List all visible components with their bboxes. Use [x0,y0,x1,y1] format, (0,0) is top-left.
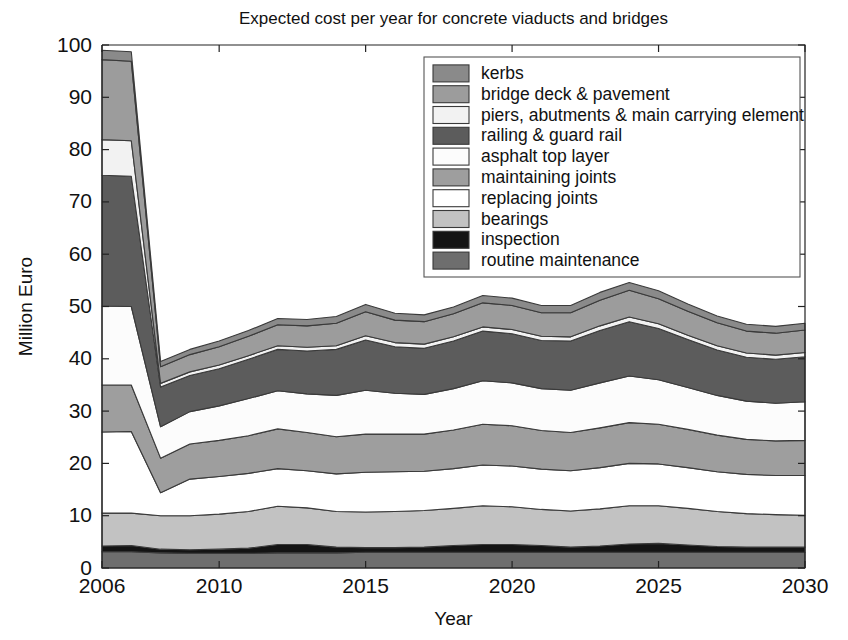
x-tick-label: 2020 [489,574,536,597]
y-tick-label: 50 [69,294,92,317]
legend-label: bearings [481,209,548,229]
legend-label: railing & guard rail [481,125,622,145]
x-tick-label: 2015 [342,574,389,597]
legend-label: kerbs [481,63,524,83]
stacked-area-chart: 0102030405060708090100200620102015202020… [0,0,848,640]
y-tick-label: 60 [69,242,92,265]
y-tick-label: 90 [69,85,92,108]
legend-swatch-bearings [433,211,469,228]
y-tick-label: 10 [69,503,92,526]
legend-label: bridge deck & pavement [481,84,670,104]
legend-label: maintaining joints [481,167,616,187]
y-axis-title: Million Euro [15,257,36,356]
legend-swatch-bridge-deck-pavement [433,86,469,103]
y-tick-label: 40 [69,346,92,369]
y-tick-label: 70 [69,189,92,212]
x-tick-label: 2030 [782,574,829,597]
legend-label: routine maintenance [481,250,640,270]
y-tick-label: 80 [69,137,92,160]
legend-swatch-routine-maintenance [433,252,469,269]
legend-label: replacing joints [481,188,598,208]
chart-title: Expected cost per year for concrete viad… [239,9,668,28]
x-tick-label: 2006 [79,574,126,597]
legend-swatch-replacing-joints [433,190,469,207]
chart-figure: 0102030405060708090100200620102015202020… [0,0,848,640]
y-tick-label: 100 [57,33,92,56]
x-tick-label: 2010 [196,574,243,597]
legend-label: inspection [481,229,560,249]
legend-label: asphalt top layer [481,146,610,166]
legend-swatch-maintaining-joints [433,169,469,186]
legend-swatch-inspection [433,231,469,248]
legend-swatch-kerbs [433,65,469,82]
y-tick-label: 20 [69,451,92,474]
legend-swatch-asphalt-top-layer [433,148,469,165]
x-axis-title: Year [434,608,473,629]
legend-swatch-railing-guard-rail [433,127,469,144]
area-band-routine-maintenance [102,552,805,568]
legend-swatch-piers-abutments-main-carrying-element [433,107,469,124]
legend-label: piers, abutments & main carrying element [481,105,804,125]
y-tick-label: 30 [69,399,92,422]
chart-legend: kerbsbridge deck & pavementpiers, abutme… [424,57,804,277]
x-tick-label: 2025 [635,574,682,597]
